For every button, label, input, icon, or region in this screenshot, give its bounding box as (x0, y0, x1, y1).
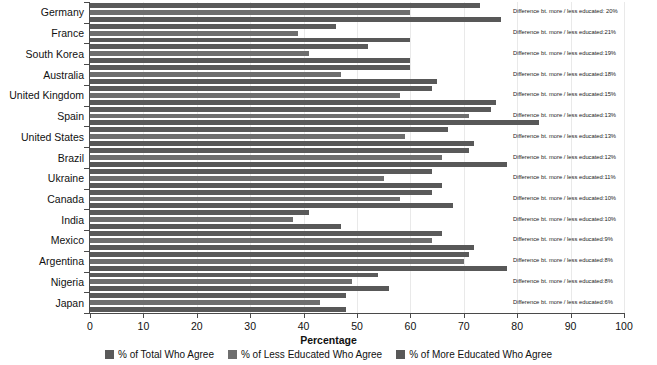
bar (90, 141, 474, 146)
gridline (624, 2, 625, 313)
difference-annotation: Difference bt. more / less educated:11% (513, 175, 616, 181)
x-axis-tick-label: 90 (565, 320, 577, 332)
x-axis-tick-label: 70 (458, 320, 470, 332)
y-axis-label: Australia (43, 70, 84, 81)
difference-annotation: Difference bt. more / less educated:18% (513, 72, 616, 78)
x-axis-tick-label: 50 (351, 320, 363, 332)
bar (90, 3, 480, 8)
bar (90, 273, 378, 278)
x-axis-tick (304, 313, 305, 318)
x-axis-tick (90, 313, 91, 318)
x-axis-tick (571, 313, 572, 318)
y-axis-tick (84, 23, 89, 24)
bar (90, 127, 448, 132)
legend-label: % of Less Educated Who Agree (241, 349, 382, 360)
bar (90, 183, 442, 188)
bar (90, 259, 464, 264)
bar (90, 279, 352, 284)
bar (90, 31, 298, 36)
legend-label: % of Total Who Agree (118, 349, 214, 360)
x-axis-tick-label: 80 (511, 320, 523, 332)
bar (90, 51, 309, 56)
bar (90, 107, 491, 112)
bar (90, 44, 368, 49)
y-axis-label: Ukraine (48, 173, 84, 184)
bar (90, 266, 507, 271)
bar (90, 162, 507, 167)
difference-annotation: Difference bt. more / less educated:13% (513, 113, 616, 119)
x-axis-tick (143, 313, 144, 318)
legend-item[interactable]: % of Less Educated Who Agree (228, 349, 382, 360)
bar (90, 79, 437, 84)
bar (90, 203, 453, 208)
bar (90, 38, 410, 43)
difference-annotation: Difference bt. more / less educated:19% (513, 51, 616, 57)
bar (90, 93, 400, 98)
bar (90, 86, 432, 91)
y-axis-tick (84, 147, 89, 148)
y-axis-tick (84, 43, 89, 44)
x-axis-tick (197, 313, 198, 318)
x-axis-tick-label: 30 (244, 320, 256, 332)
bar (90, 190, 432, 195)
y-axis-label: Mexico (51, 235, 84, 246)
bar (90, 65, 410, 70)
y-axis-label: United States (21, 132, 84, 143)
x-axis-tick-label: 20 (191, 320, 203, 332)
difference-annotation: Difference bt. more / less educated:21% (513, 30, 616, 36)
y-axis-label: Spain (57, 111, 84, 122)
y-axis-tick (84, 126, 89, 127)
bar (90, 100, 496, 105)
x-axis-tick-label: 100 (615, 320, 633, 332)
x-axis-tick-label: 10 (138, 320, 150, 332)
bar (90, 24, 336, 29)
legend-item[interactable]: % of Total Who Agree (105, 349, 214, 360)
difference-annotation: Difference bt. more / less educated:8% (513, 258, 613, 264)
x-axis-tick (250, 313, 251, 318)
difference-annotation: Difference bt. more / less educated:10% (513, 196, 616, 202)
x-axis-tick-label: 0 (87, 320, 93, 332)
bar (90, 238, 432, 243)
difference-annotation: Difference bt. more / less educated:9% (513, 237, 613, 243)
difference-annotation: Difference bt. more / less educated:15% (513, 92, 616, 98)
bar (90, 224, 341, 229)
y-axis-label: Canada (47, 194, 84, 205)
bar-chart: GermanyFranceSouth KoreaAustraliaUnited … (0, 0, 657, 365)
bar (90, 58, 410, 63)
difference-annotation: Difference bt. more / less educated: 20% (513, 9, 618, 15)
y-axis-label: United Kingdom (9, 90, 84, 101)
legend-item[interactable]: % of More Educated Who Agree (396, 349, 552, 360)
bar (90, 307, 346, 312)
bar (90, 176, 384, 181)
y-axis-tick (84, 209, 89, 210)
chart-legend: % of Total Who Agree% of Less Educated W… (0, 349, 657, 360)
x-axis-tick (410, 313, 411, 318)
y-axis-label: Brazil (58, 153, 84, 164)
y-axis-tick (84, 313, 89, 314)
x-axis-tick (357, 313, 358, 318)
y-axis-tick (84, 230, 89, 231)
y-axis-label: Germany (41, 7, 84, 18)
legend-swatch-icon (228, 350, 237, 359)
y-axis-tick (84, 85, 89, 86)
bar (90, 231, 442, 236)
bar (90, 300, 320, 305)
y-axis-tick (84, 251, 89, 252)
bar (90, 72, 341, 77)
x-axis-title: Percentage (0, 334, 657, 346)
x-axis-tick-label: 60 (405, 320, 417, 332)
y-axis-tick (84, 2, 89, 3)
difference-annotation: Difference bt. more / less educated:13% (513, 134, 616, 140)
difference-annotation: Difference bt. more / less educated:6% (513, 300, 613, 306)
y-axis-label: India (61, 215, 84, 226)
legend-label: % of More Educated Who Agree (409, 349, 552, 360)
bar (90, 134, 405, 139)
bar (90, 252, 469, 257)
y-axis-tick (84, 168, 89, 169)
bar (90, 120, 539, 125)
legend-swatch-icon (105, 350, 114, 359)
bar (90, 245, 474, 250)
bar (90, 17, 501, 22)
difference-annotation: Difference bt. more / less educated:12% (513, 155, 616, 161)
x-axis-tick-label: 40 (298, 320, 310, 332)
